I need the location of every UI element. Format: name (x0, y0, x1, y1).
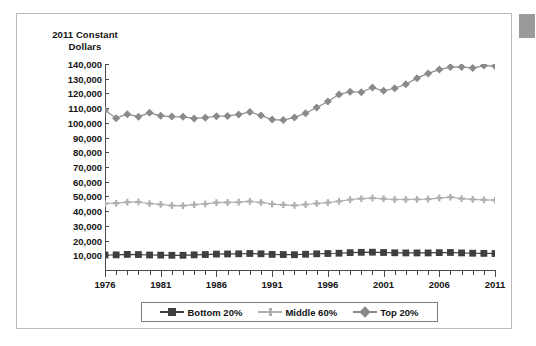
data-point-marker (436, 195, 443, 202)
data-point-marker (491, 64, 495, 70)
x-tick-mark-minor (127, 271, 128, 275)
y-tick-label: 70,000 (42, 162, 102, 173)
data-point-marker (213, 251, 220, 258)
data-point-marker (190, 114, 198, 122)
x-tick-mark-minor (150, 271, 151, 275)
data-point-marker (291, 202, 298, 209)
data-point-marker (414, 250, 421, 257)
data-point-marker (202, 201, 209, 208)
data-point-marker (224, 199, 231, 206)
data-point-marker (124, 251, 131, 258)
data-point-marker (257, 112, 265, 120)
legend-item-top-20[interactable]: Top 20% (353, 307, 418, 318)
data-point-marker (380, 249, 387, 256)
x-tick-mark-minor (172, 271, 173, 275)
x-tick-mark-major (272, 271, 273, 277)
data-point-marker (425, 196, 432, 203)
series-top-20 (105, 64, 495, 124)
data-point-marker (447, 194, 454, 201)
y-tick-label: 110,000 (42, 103, 102, 114)
y-tick-label: 80,000 (42, 147, 102, 158)
series-line (105, 66, 495, 120)
x-tick-mark-minor (205, 271, 206, 275)
x-tick-mark-minor (138, 271, 139, 275)
x-tick-mark-minor (473, 271, 474, 275)
legend-item-bottom-20[interactable]: Bottom 20% (160, 307, 242, 318)
data-point-marker (113, 251, 120, 258)
data-point-marker (324, 98, 332, 106)
legend-item-middle-60[interactable]: Middle 60% (258, 307, 337, 318)
data-point-marker (113, 200, 120, 207)
x-tick-mark-major (495, 271, 496, 277)
series-bottom-20 (105, 249, 495, 259)
legend-label: Bottom 20% (187, 307, 242, 318)
data-point-marker (402, 250, 409, 257)
x-tick-mark-major (328, 271, 329, 277)
scrollbar-thumb[interactable] (519, 14, 535, 38)
data-point-marker (269, 251, 276, 258)
data-point-marker (235, 250, 242, 257)
data-point-marker (157, 252, 164, 259)
data-point-marker (480, 64, 488, 70)
data-point-marker (290, 113, 298, 121)
data-point-marker (180, 252, 187, 259)
data-point-marker (480, 250, 487, 257)
data-point-marker (246, 108, 254, 116)
data-point-marker (202, 251, 209, 258)
data-point-marker (179, 113, 187, 121)
x-tick-mark-minor (462, 271, 463, 275)
data-point-marker (105, 200, 108, 207)
data-point-marker (157, 201, 164, 208)
data-point-marker (157, 112, 165, 120)
chart-legend: Bottom 20%Middle 60%Top 20% (141, 302, 438, 322)
x-tick-mark-major (439, 271, 440, 277)
y-tick-label: 60,000 (42, 176, 102, 187)
data-point-marker (446, 64, 454, 71)
data-point-marker (347, 196, 354, 203)
data-point-marker (336, 198, 343, 205)
x-tick-mark-minor (484, 271, 485, 275)
x-tick-mark-minor (261, 271, 262, 275)
x-tick-mark-minor (361, 271, 362, 275)
x-tick-mark-minor (428, 271, 429, 275)
data-point-marker (191, 251, 198, 258)
data-point-marker (469, 250, 476, 257)
data-point-marker (302, 109, 310, 117)
data-point-marker (336, 250, 343, 257)
data-point-marker (346, 88, 354, 96)
data-point-marker (492, 197, 495, 204)
data-point-marker (458, 250, 465, 257)
data-point-marker (135, 199, 142, 206)
data-point-marker (246, 198, 253, 205)
data-point-marker (480, 196, 487, 203)
data-point-marker (168, 252, 175, 259)
x-tick-mark-minor (350, 271, 351, 275)
data-point-marker (357, 88, 365, 96)
data-point-marker (235, 199, 242, 206)
data-point-marker (369, 195, 376, 202)
data-point-marker (324, 250, 331, 257)
data-point-marker (302, 201, 309, 208)
x-tick-label: 1991 (262, 279, 283, 290)
data-point-marker (146, 252, 153, 259)
data-point-marker (212, 112, 220, 120)
x-tick-mark-minor (183, 271, 184, 275)
data-point-marker (258, 199, 265, 206)
data-point-marker (123, 110, 131, 118)
data-point-marker (391, 84, 399, 92)
data-point-marker (424, 69, 432, 77)
y-tick-label: 140,000 (42, 59, 102, 70)
data-point-marker (269, 201, 276, 208)
x-tick-label: 1986 (206, 279, 227, 290)
data-point-marker (112, 114, 120, 122)
x-tick-label: 2006 (429, 279, 450, 290)
x-tick-mark-minor (417, 271, 418, 275)
y-axis-tick-labels: 10,00020,00030,00040,00050,00060,00070,0… (38, 0, 102, 346)
x-tick-mark-minor (116, 271, 117, 275)
x-tick-mark-minor (283, 271, 284, 275)
x-tick-mark-minor (406, 271, 407, 275)
x-tick-mark-minor (372, 271, 373, 275)
y-tick-label: 30,000 (42, 220, 102, 231)
y-tick-label: 90,000 (42, 132, 102, 143)
x-tick-label: 1996 (317, 279, 338, 290)
